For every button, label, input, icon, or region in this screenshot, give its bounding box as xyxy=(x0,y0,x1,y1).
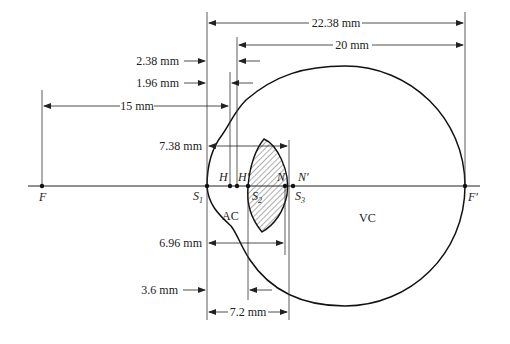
label-F-prime: F′ xyxy=(467,190,478,204)
dim-3-6-label: 3.6 mm xyxy=(141,283,178,297)
point-H-prime xyxy=(235,184,239,188)
label-H: H xyxy=(218,170,229,184)
dim-15-label: 15 mm xyxy=(120,99,154,113)
dim-1-96-label: 1.96 mm xyxy=(136,76,179,90)
point-S2 xyxy=(246,184,250,188)
dim-2-38-label: 2.38 mm xyxy=(136,54,179,68)
dim-20-label: 20 mm xyxy=(335,38,369,52)
point-S1 xyxy=(205,184,209,188)
eye-diagram: 22.38 mm 20 mm 2.38 mm 1.96 mm 15 mm 7.3… xyxy=(0,0,510,344)
label-N: N xyxy=(276,170,286,184)
dim-7-2-label: 7.2 mm xyxy=(230,305,267,319)
label-N-prime: N′ xyxy=(297,170,309,184)
label-F: F xyxy=(38,190,47,204)
point-N xyxy=(283,184,287,188)
dim-6-96-label: 6.96 mm xyxy=(159,236,202,250)
dim-7-38-label: 7.38 mm xyxy=(159,139,202,153)
point-N-prime xyxy=(291,184,295,188)
crystalline-lens xyxy=(248,139,288,232)
label-AC: AC xyxy=(222,209,239,223)
dim-22-38-label: 22.38 mm xyxy=(312,16,361,30)
label-H-prime: H′ xyxy=(237,170,250,184)
label-S3: S3 xyxy=(295,189,305,205)
label-VC: VC xyxy=(359,211,376,225)
point-F xyxy=(40,184,44,188)
point-F-prime xyxy=(463,184,467,188)
point-H xyxy=(228,184,232,188)
label-S1: S1 xyxy=(193,189,203,205)
